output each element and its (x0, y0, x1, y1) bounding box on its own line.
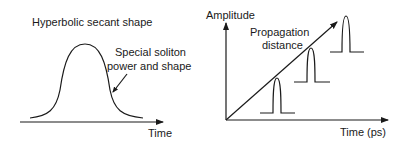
right-x-axis-label: Time (ps) (340, 126, 386, 138)
pulse-3 (330, 16, 364, 52)
annotation-pointer-arrow (113, 74, 127, 92)
pulse-2 (294, 48, 330, 82)
annotation-line2: power and shape (107, 60, 191, 72)
propagation-label-line1: Propagation (250, 26, 309, 38)
left-x-axis-label: Time (148, 127, 172, 139)
amplitude-axis-label: Amplitude (206, 9, 255, 21)
pulse-1 (260, 78, 295, 113)
right-panel: Amplitude Time (ps) Propagation distance (206, 9, 388, 138)
left-panel: Hyperbolic secant shape Special soliton … (20, 16, 191, 139)
annotation-line1: Special soliton (115, 46, 186, 58)
soliton-diagram: Hyperbolic secant shape Special soliton … (0, 0, 408, 146)
propagation-label-line2: distance (262, 39, 303, 51)
left-panel-title: Hyperbolic secant shape (32, 16, 152, 28)
